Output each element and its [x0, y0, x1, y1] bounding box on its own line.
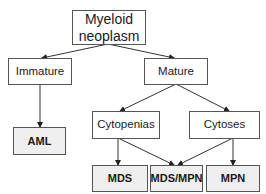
node-label: Cytopenias: [97, 118, 155, 131]
edge-root-immature: [42, 44, 108, 58]
edge-cytoses-mdsmpn: [178, 138, 233, 165]
node-label: Mature: [158, 65, 194, 78]
node-mpn: MPN: [206, 165, 260, 192]
node-mature: Mature: [144, 58, 208, 85]
node-mds-mpn: MDS/MPN: [150, 165, 203, 192]
node-cytopenias: Cytopenias: [92, 111, 160, 139]
node-label-line1: Myeloid: [85, 11, 133, 27]
edge-mature-cytopenias: [120, 84, 176, 111]
edge-cytopenias-mdsmpn: [118, 138, 174, 165]
edge-root-mature: [108, 44, 174, 58]
node-label: Cytoses: [204, 118, 246, 131]
edge-mature-cytoses: [176, 84, 229, 111]
node-mds: MDS: [92, 165, 148, 192]
node-label: Immature: [16, 65, 65, 78]
node-cytoses: Cytoses: [189, 111, 260, 139]
node-label: MPN: [221, 172, 245, 185]
node-label: MDS/MPN: [151, 172, 203, 185]
node-label: AML: [28, 135, 52, 148]
node-immature: Immature: [8, 58, 72, 85]
node-label-line2: neoplasm: [79, 28, 140, 44]
node-aml: AML: [13, 127, 66, 155]
diagram-canvas: Myeloid neoplasm Immature Mature AML Cyt…: [0, 0, 266, 194]
node-label: MDS: [108, 172, 132, 185]
node-myeloid-neoplasm: Myeloid neoplasm: [72, 10, 146, 45]
